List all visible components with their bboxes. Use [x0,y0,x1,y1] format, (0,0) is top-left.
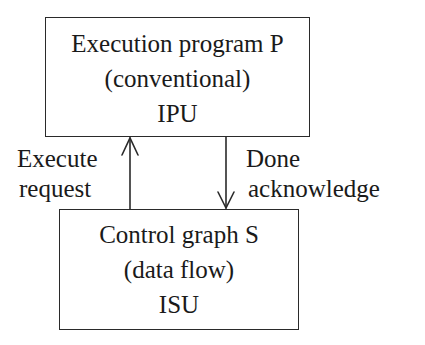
request-label: request [19,175,91,203]
done-label: Done [246,145,300,173]
execute-label: Execute [17,145,98,173]
acknowledge-label: acknowledge [248,175,380,203]
